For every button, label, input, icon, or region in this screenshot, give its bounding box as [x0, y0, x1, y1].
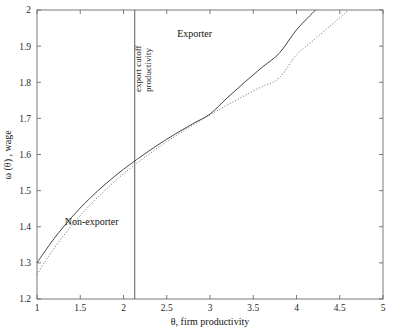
x-axis-title: θ, firm productivity	[171, 316, 249, 327]
y-tick-label: 1.3	[19, 258, 31, 268]
y-axis-ticks	[37, 10, 383, 299]
y-axis-title: ω (θ) , wage	[2, 130, 14, 180]
export-cutoff-label-line1: export cutoff	[133, 45, 143, 92]
y-tick-label: 1.7	[19, 114, 31, 124]
y-tick-label: 1.9	[19, 42, 31, 52]
x-tick-label: 2	[121, 303, 126, 313]
x-tick-label: 4.5	[334, 303, 346, 313]
x-tick-label: 4	[294, 303, 299, 313]
wage-productivity-chart: 11.522.533.544.55 1.21.31.41.51.61.71.81…	[0, 0, 393, 332]
y-axis-tick-labels: 1.21.31.41.51.61.71.81.92	[19, 5, 31, 304]
x-tick-label: 3.5	[247, 303, 259, 313]
x-tick-label: 5	[381, 303, 386, 313]
y-tick-label: 1.5	[19, 186, 31, 196]
y-tick-label: 1.8	[19, 78, 31, 88]
exporter-label: Exporter	[177, 28, 213, 39]
y-tick-label: 1.6	[19, 150, 31, 160]
x-axis-tick-labels: 11.522.533.544.55	[35, 303, 386, 313]
y-tick-label: 1.2	[19, 294, 31, 304]
x-tick-label: 3	[208, 303, 213, 313]
export-cutoff-group: export cutoffproductivity	[133, 10, 153, 299]
non-exporter-label: Non-exporter	[65, 216, 120, 227]
x-axis-ticks	[37, 10, 383, 299]
non-exporter-curve	[37, 10, 348, 274]
chart-figure: 11.522.533.544.55 1.21.31.41.51.61.71.81…	[0, 0, 393, 332]
export-cutoff-label-line2: productivity	[143, 48, 153, 92]
y-tick-label: 1.4	[19, 222, 31, 232]
x-tick-label: 2.5	[161, 303, 173, 313]
x-tick-label: 1	[35, 303, 40, 313]
x-tick-label: 1.5	[74, 303, 86, 313]
plot-frame	[37, 10, 383, 299]
y-tick-label: 2	[26, 5, 31, 15]
